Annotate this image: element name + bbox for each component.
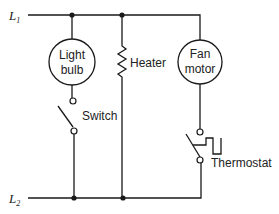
circuit-diagram: L1 L2 Light bulb Switch Heater Fan motor…: [0, 0, 279, 214]
light-bulb-icon: [49, 39, 95, 85]
rail-l2-label: L2: [8, 191, 20, 208]
switch-terminal-icon: [71, 128, 77, 134]
thermostat-label: Thermostat: [211, 156, 272, 170]
light-bulb-branch: Light bulb Switch: [49, 15, 117, 198]
switch-label: Switch: [82, 109, 117, 123]
heater-label: Heater: [130, 56, 166, 70]
heater-resistor-icon: [118, 15, 126, 198]
rail-l1-label: L1: [8, 8, 20, 25]
fan-motor-label-line2: motor: [185, 62, 216, 76]
thermostat-terminal-icon: [197, 129, 203, 135]
switch-terminal-icon: [70, 98, 76, 104]
rail-l2-wire: [28, 160, 201, 198]
light-bulb-label-line1: Light: [59, 48, 86, 62]
light-bulb-label-line2: bulb: [61, 63, 84, 77]
rail-l1-wire: [28, 15, 200, 40]
heater-branch: Heater: [118, 15, 166, 198]
fan-motor-branch: Fan motor Thermostat: [178, 40, 272, 170]
fan-motor-label-line1: Fan: [190, 47, 211, 61]
thermostat-terminal-icon: [197, 157, 203, 163]
switch-blade-icon: [58, 106, 73, 127]
junction-node: [120, 195, 125, 200]
